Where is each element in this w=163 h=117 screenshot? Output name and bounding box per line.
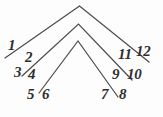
- region-label-9: 9: [112, 67, 119, 82]
- region-label-8: 8: [119, 87, 126, 102]
- region-label-4: 4: [28, 67, 35, 82]
- region-label-12: 12: [136, 44, 151, 59]
- region-label-6: 6: [42, 87, 49, 102]
- region-label-5: 5: [27, 87, 34, 102]
- region-label-1: 1: [8, 38, 15, 53]
- region-label-3: 3: [14, 65, 21, 80]
- chevron-diagram: 1 2 3 4 5 6 7 8 9 10 11 12: [0, 0, 163, 117]
- region-label-10: 10: [127, 67, 142, 82]
- region-label-2: 2: [25, 50, 32, 65]
- region-label-7: 7: [101, 87, 108, 102]
- region-label-11: 11: [118, 47, 132, 62]
